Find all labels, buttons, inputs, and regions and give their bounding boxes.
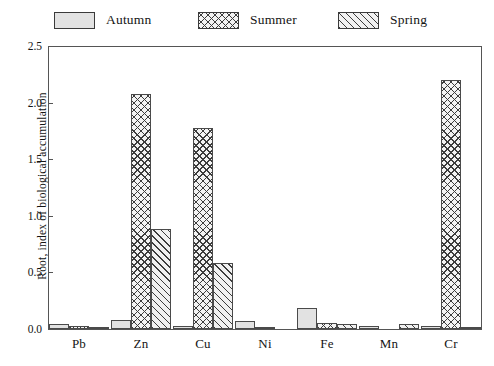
legend-label-summer: Summer	[250, 12, 297, 28]
bar-cr-summer	[441, 80, 461, 329]
x-axis-labels: PbZnCuNiFeMnCr	[48, 336, 482, 358]
bar-pb-autumn	[49, 324, 69, 329]
x-axis-label: Zn	[134, 336, 149, 352]
y-axis-tick-label: 2.5	[6, 40, 42, 52]
legend-swatch-spring	[338, 12, 379, 29]
bar-group	[173, 46, 233, 329]
x-axis-label: Pb	[72, 336, 86, 352]
bar-fe-spring	[337, 324, 357, 329]
bar-chart: Autumn Summer Spring Root, index of biol…	[0, 0, 494, 366]
bar-pb-summer	[69, 326, 89, 329]
bar-group	[235, 46, 295, 329]
x-axis-label: Ni	[258, 336, 271, 352]
x-axis-label: Cu	[195, 336, 211, 352]
bar-fe-summer	[317, 323, 337, 329]
legend-swatch-summer	[198, 12, 239, 29]
plot-area: 0.00.51.01.52.02.5	[48, 46, 482, 329]
y-axis-tick-label: 0.5	[6, 266, 42, 278]
bar-group	[359, 46, 419, 329]
bar-zn-autumn	[111, 320, 131, 329]
bar-group	[297, 46, 357, 329]
bar-fe-autumn	[297, 308, 317, 330]
x-axis-label: Fe	[320, 336, 333, 352]
bar-mn-spring	[399, 324, 419, 329]
bar-cu-summer	[193, 128, 213, 329]
bar-cu-autumn	[173, 326, 193, 329]
legend-swatch-autumn	[54, 12, 95, 29]
x-axis-label: Mn	[380, 336, 398, 352]
y-axis-tick-label: 1.5	[6, 153, 42, 165]
bar-pb-spring	[89, 327, 109, 329]
y-axis-tick-label: 1.0	[6, 210, 42, 222]
legend-item-autumn: Autumn	[54, 9, 151, 31]
x-axis-label: Cr	[444, 336, 457, 352]
y-axis-tick-label: 2.0	[6, 97, 42, 109]
bar-group	[421, 46, 481, 329]
bar-mn-autumn	[359, 326, 379, 329]
legend-item-summer: Summer	[198, 9, 297, 31]
bar-ni-summer	[255, 327, 275, 329]
bar-cr-spring	[461, 327, 481, 329]
y-axis-tick-label: 0.0	[6, 323, 42, 335]
bar-ni-autumn	[235, 321, 255, 329]
y-axis-title: Root, index of biological accumulation	[36, 51, 48, 321]
bar-cu-spring	[213, 263, 233, 329]
bar-cr-autumn	[421, 326, 441, 329]
bar-zn-spring	[151, 229, 171, 329]
legend-label-autumn: Autumn	[106, 12, 151, 28]
legend-label-spring: Spring	[390, 12, 427, 28]
bar-zn-summer	[131, 94, 151, 329]
chart-legend: Autumn Summer Spring	[0, 9, 494, 39]
legend-item-spring: Spring	[338, 9, 427, 31]
bar-group	[49, 46, 109, 329]
bar-group	[111, 46, 171, 329]
